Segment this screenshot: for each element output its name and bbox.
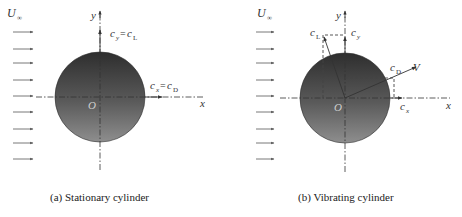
caption-b: (b) Vibrating cylinder [298, 191, 394, 204]
svg-text:x: x [445, 99, 451, 111]
svg-text:U: U [7, 6, 17, 20]
svg-text:L: L [133, 34, 137, 42]
svg-text:c: c [127, 27, 132, 39]
svg-text:O: O [88, 99, 96, 111]
svg-text:c: c [390, 61, 395, 73]
svg-text:=: = [160, 80, 166, 91]
panel-b-vibrating-cylinder: U ∞ y x O c [256, 6, 451, 204]
svg-text:D: D [173, 86, 178, 94]
svg-text:c: c [351, 26, 356, 38]
svg-text:c: c [310, 26, 315, 38]
svg-text:L: L [316, 33, 320, 41]
svg-text:∞: ∞ [17, 14, 22, 22]
freestream-label-b: U ∞ [257, 6, 272, 22]
cL-label-b: c L [310, 26, 320, 41]
caption-a: (a) Stationary cylinder [50, 191, 149, 204]
svg-text:y: y [335, 9, 341, 21]
cx-label-b: c x [400, 100, 410, 115]
svg-text:D: D [396, 68, 401, 76]
freestream-label-a: U ∞ [7, 6, 22, 22]
flow-arrows-b [256, 32, 274, 159]
velocity-label-b: V [413, 61, 421, 73]
svg-text:c: c [167, 79, 172, 91]
svg-text:c: c [400, 100, 405, 112]
svg-text:c: c [110, 27, 115, 39]
cD-label-b: c D [390, 61, 401, 76]
svg-text:y: y [356, 33, 361, 41]
drag-label-a: c x = c D [150, 79, 178, 94]
svg-text:c: c [150, 79, 155, 91]
svg-text:y: y [90, 9, 96, 21]
svg-text:x: x [405, 107, 410, 115]
panel-a-stationary-cylinder: U ∞ y x O c y = [7, 6, 205, 204]
svg-text:x: x [199, 97, 205, 109]
cy-label-b: c y [351, 26, 361, 41]
svg-text:=: = [120, 28, 126, 39]
svg-text:U: U [257, 6, 267, 20]
svg-text:O: O [334, 101, 342, 113]
figure-canvas: U ∞ y x O c y = [0, 0, 462, 217]
svg-text:∞: ∞ [267, 14, 272, 22]
lift-label-a: c y = c L [110, 27, 137, 42]
flow-arrows-a [13, 32, 33, 159]
